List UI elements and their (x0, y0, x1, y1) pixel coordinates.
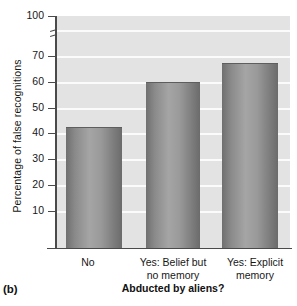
cat1-line1: Yes: Belief but (126, 256, 220, 269)
panel-label: (b) (3, 283, 18, 295)
x-category-label-no: No (54, 256, 122, 269)
y-tick-20 (48, 185, 55, 186)
bar-explicit-memory (222, 63, 278, 248)
y-tick-text-30: 30 (32, 152, 44, 164)
x-axis-title: Abducted by aliens? (56, 282, 290, 294)
plot-area (56, 16, 290, 248)
cat1-line2: no memory (126, 269, 220, 282)
cat2-line1: Yes: Explicit (212, 256, 297, 269)
y-tick-40 (48, 133, 55, 134)
y-tick-10 (48, 211, 55, 212)
y-tick-text-10: 10 (32, 204, 44, 216)
bar-no (66, 127, 122, 248)
cat0-line1: No (54, 256, 122, 269)
y-tick-50 (48, 108, 55, 109)
y-tick-text-20: 20 (32, 178, 44, 190)
y-axis-line (55, 16, 57, 249)
gridline-top (56, 30, 290, 32)
figure-panel-b: Percentage of false recognitions 100 70 … (0, 0, 297, 306)
gridline-70 (56, 56, 290, 58)
y-tick-30 (48, 159, 55, 160)
x-category-label-explicit-memory: Yes: Explicit memory (212, 256, 297, 281)
y-tick-text-70: 70 (32, 49, 44, 61)
x-category-label-belief-no-memory: Yes: Belief but no memory (126, 256, 220, 281)
y-tick-70 (48, 56, 55, 57)
y-tick-60 (48, 82, 55, 83)
bar-belief-no-memory (146, 82, 200, 248)
cat2-line2: memory (212, 269, 297, 282)
y-tick-text-50: 50 (32, 101, 44, 113)
y-tick-100 (48, 16, 55, 17)
y-axis-title: Percentage of false recognitions (11, 31, 23, 241)
y-tick-text-40: 40 (32, 126, 44, 138)
y-tick-text-60: 60 (32, 75, 44, 87)
y-tick-text-100: 100 (26, 9, 44, 21)
x-axis-line (47, 248, 292, 250)
